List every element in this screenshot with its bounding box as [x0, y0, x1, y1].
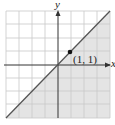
x-axis-label: x [110, 57, 115, 69]
inequality-graph: (1, 1) x y [0, 0, 115, 125]
y-axis-label: y [54, 0, 60, 10]
point-marker [68, 50, 73, 55]
point-label: (1, 1) [73, 53, 97, 66]
